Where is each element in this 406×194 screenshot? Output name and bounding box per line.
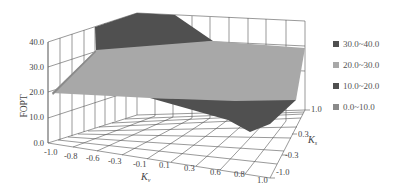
legend-swatch	[333, 83, 339, 89]
legend: 30.0~40.0 20.0~30.0 10.0~20.0 0.0~10.0	[333, 33, 379, 117]
legend-label: 30.0~40.0	[343, 39, 379, 49]
z-ticks: 40.0 30.0 20.0 10.0 0.0	[29, 37, 44, 148]
svg-text:-0.6: -0.6	[86, 153, 99, 163]
legend-item: 30.0~40.0	[333, 33, 379, 54]
svg-text:30.0: 30.0	[29, 62, 44, 72]
svg-text:0.0: 0.0	[33, 138, 44, 148]
svg-text:-0.3: -0.3	[285, 150, 298, 160]
x-axis-label: Kv	[140, 171, 151, 183]
y-axis-label: Ks	[307, 134, 318, 146]
svg-text:1.0: 1.0	[311, 104, 322, 114]
svg-text:1.0: 1.0	[257, 175, 268, 185]
z-axis-label: FOPT	[19, 94, 29, 117]
svg-text:10.0: 10.0	[29, 112, 44, 122]
svg-text:-1.0: -1.0	[44, 147, 57, 157]
legend-item: 0.0~10.0	[333, 96, 379, 117]
legend-swatch	[333, 41, 339, 47]
svg-text:0.8: 0.8	[234, 169, 245, 179]
svg-text:0.1: 0.1	[159, 160, 170, 170]
surface	[52, 13, 305, 132]
svg-text:-1.0: -1.0	[276, 167, 289, 177]
surface-band-10-20	[150, 98, 296, 132]
legend-swatch	[333, 104, 339, 110]
legend-label: 20.0~30.0	[343, 60, 379, 70]
legend-item: 10.0~20.0	[333, 75, 379, 96]
svg-text:40.0: 40.0	[29, 37, 44, 47]
svg-text:20.0: 20.0	[29, 87, 44, 97]
svg-text:0.6: 0.6	[210, 167, 221, 177]
x-ticks: -1.0 -0.8 -0.6 -0.3 -0.1 0.1 0.3 0.6 0.8…	[44, 147, 268, 185]
legend-label: 0.0~10.0	[343, 102, 375, 112]
surface-band-20-30	[52, 41, 305, 101]
legend-swatch	[333, 62, 339, 68]
legend-label: 10.0~20.0	[343, 81, 379, 91]
svg-text:-0.3: -0.3	[108, 156, 121, 166]
svg-text:-0.8: -0.8	[64, 151, 77, 161]
svg-text:-0.1: -0.1	[133, 159, 146, 169]
svg-text:0.3: 0.3	[184, 163, 195, 173]
legend-item: 20.0~30.0	[333, 54, 379, 75]
